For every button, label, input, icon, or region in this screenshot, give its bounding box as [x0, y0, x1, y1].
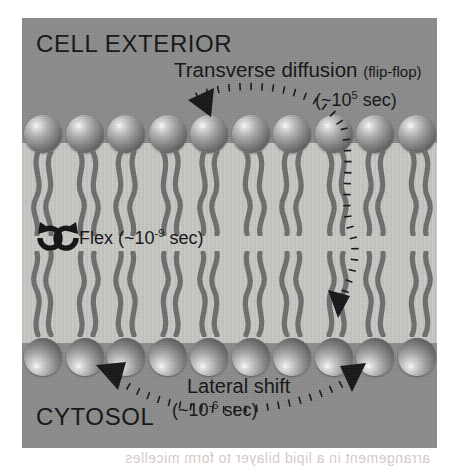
- lipid-molecule: [354, 18, 396, 19]
- lateral-time-prefix: (~10: [172, 400, 209, 420]
- flex-title: Flex: [79, 228, 113, 248]
- lipid-tail: [206, 150, 228, 236]
- lipid-head-group: [107, 338, 145, 376]
- lipid-head-group: [356, 338, 394, 376]
- lipid-head-group: [398, 115, 436, 153]
- lipid-molecule: [271, 18, 313, 19]
- lipid-head-group: [398, 338, 436, 376]
- lipid-molecule: [396, 18, 438, 19]
- lipid-head-group: [66, 115, 104, 153]
- transverse-qualifier: (flip-flop): [363, 63, 421, 80]
- lipid-head-group: [190, 338, 228, 376]
- lipid-tail: [165, 150, 187, 236]
- lipid-head-group: [107, 115, 145, 153]
- cytosol-label: CYTOSOL: [36, 403, 154, 431]
- flex-time-prefix: (~10: [118, 228, 155, 248]
- lipid-head-group: [273, 338, 311, 376]
- lateral-shift-label: Lateral shift: [187, 375, 290, 398]
- lipid-head-group: [24, 115, 62, 153]
- transverse-time-prefix: (~10: [315, 90, 352, 110]
- lipid-tail: [289, 150, 311, 236]
- lipid-tail: [82, 251, 104, 337]
- lipid-molecule: [147, 18, 189, 19]
- transverse-timescale: (~105 sec): [315, 90, 397, 111]
- lipid-tail: [289, 251, 311, 337]
- membrane-diagram-panel: CELL EXTERIOR CYTOSOL Transverse diffusi…: [22, 18, 437, 448]
- cell-exterior-label: CELL EXTERIOR: [36, 30, 232, 58]
- lipid-head-group: [315, 115, 353, 153]
- lateral-time-exponent: -6: [209, 399, 219, 411]
- lipid-tail: [123, 251, 145, 337]
- lipid-head-group: [315, 338, 353, 376]
- lipid-head-group: [190, 115, 228, 153]
- flex-time-exponent: -9: [155, 227, 165, 239]
- transverse-arrowhead: [188, 88, 214, 117]
- lipid-head-group: [24, 338, 62, 376]
- lipid-tail: [248, 251, 270, 337]
- lipid-molecule: [22, 18, 64, 19]
- lipid-tail: [123, 150, 145, 236]
- lipid-molecule: [188, 18, 230, 19]
- lipid-tail: [331, 150, 353, 236]
- lateral-timescale: (~10-6 sec): [172, 400, 257, 421]
- lipid-molecule: [64, 18, 106, 19]
- flex-label: Flex (~10-9 sec): [79, 228, 204, 249]
- flex-time-suffix: sec): [164, 228, 203, 248]
- lipid-molecule: [105, 18, 147, 19]
- lipid-tail: [165, 251, 187, 337]
- lipid-molecule: [230, 18, 272, 19]
- lipid-tail: [372, 150, 394, 236]
- flex-arrow-right: [56, 222, 78, 248]
- lipid-head-group: [356, 115, 394, 153]
- scan-bleed-through-text: arrangement in a lipid bilayer to form m…: [30, 450, 430, 468]
- lipid-head-group: [232, 338, 270, 376]
- lipid-tail: [40, 251, 62, 337]
- transverse-title: Transverse diffusion: [174, 58, 357, 81]
- lipid-tail: [414, 251, 436, 337]
- lipid-head-group: [273, 115, 311, 153]
- lipid-tail: [331, 251, 353, 337]
- lipid-tail: [206, 251, 228, 337]
- transverse-time-suffix: sec): [358, 90, 397, 110]
- lipid-head-group: [66, 338, 104, 376]
- lipid-head-group: [232, 115, 270, 153]
- lipid-molecule: [313, 18, 355, 19]
- lipid-tail: [372, 251, 394, 337]
- lateral-time-suffix: sec): [218, 400, 257, 420]
- transverse-diffusion-label: Transverse diffusion (flip-flop): [174, 58, 422, 82]
- lipid-tail: [414, 150, 436, 236]
- lipid-head-group: [149, 338, 187, 376]
- lipid-head-group: [149, 115, 187, 153]
- lipid-tail: [248, 150, 270, 236]
